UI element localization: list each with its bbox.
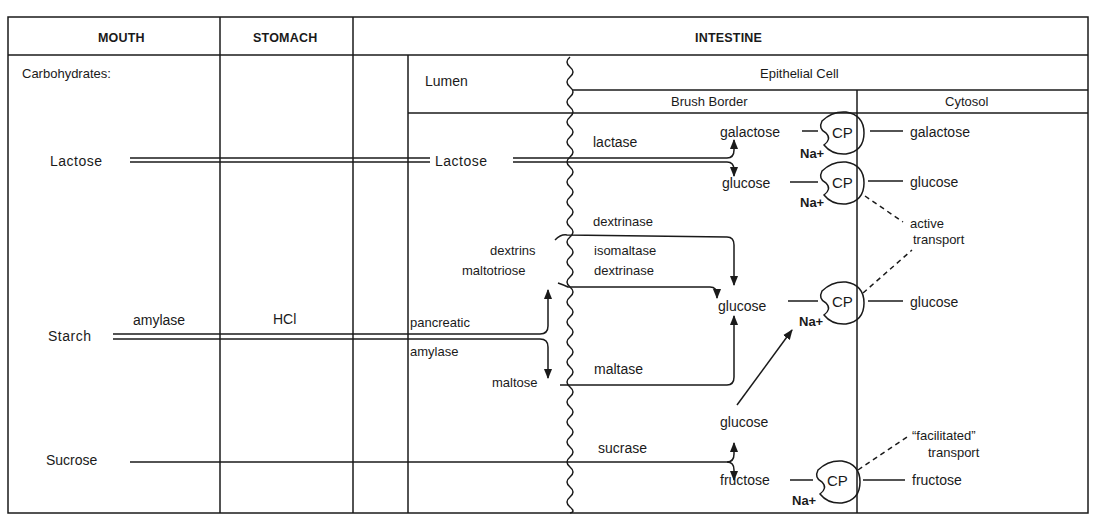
- carrier-na-label-1: Na+: [800, 146, 824, 162]
- carrier-na-label-3: Na+: [799, 314, 823, 330]
- cyto-active-transport: transport: [913, 232, 964, 248]
- bb-lactase: lactase: [593, 134, 637, 150]
- mouth-starch: Starch: [48, 328, 91, 344]
- lumen-dextrins: dextrins: [490, 243, 536, 259]
- membrane-wavy-line: [567, 57, 573, 513]
- bb-dextrinase-1: dextrinase: [593, 214, 653, 230]
- lumen-lactose: Lactose: [435, 153, 488, 169]
- bb-isomaltase: isomaltase: [594, 243, 656, 259]
- header-mouth: MOUTH: [98, 30, 145, 46]
- bb-sucrase: sucrase: [598, 440, 647, 456]
- lumen-pancreatic: pancreatic: [410, 315, 470, 331]
- carrier-cp-label-2: CP: [832, 175, 853, 191]
- bb-glucose-2: glucose: [718, 298, 766, 314]
- header-intestine: INTESTINE: [695, 30, 762, 46]
- carrier-cp-label-4: CP: [827, 473, 848, 489]
- mouth-lactose: Lactose: [50, 153, 103, 169]
- carrier-cp-label-1: CP: [832, 125, 853, 141]
- label-cytosol: Cytosol: [945, 94, 988, 110]
- lumen-amylase: amylase: [410, 344, 458, 360]
- carrier-na-label-2: Na+: [800, 195, 824, 211]
- label-carbohydrates: Carbohydrates:: [22, 66, 111, 82]
- lumen-maltose: maltose: [492, 375, 538, 391]
- cyto-fructose: fructose: [912, 472, 962, 488]
- lumen-maltotriose: maltotriose: [462, 263, 526, 279]
- cyto-glucose-1: glucose: [910, 174, 958, 190]
- bb-glucose-1: glucose: [722, 175, 770, 191]
- cyto-facilitated-transport: transport: [928, 445, 979, 461]
- cyto-galactose: galactose: [910, 124, 970, 140]
- carrier-cp-label-3: CP: [832, 294, 853, 310]
- stomach-hcl: HCl: [273, 311, 296, 327]
- mouth-amylase: amylase: [133, 312, 185, 328]
- label-epithelial-cell: Epithelial Cell: [760, 66, 839, 82]
- cyto-facilitated: “facilitated”: [912, 428, 976, 444]
- mouth-sucrose: Sucrose: [46, 452, 97, 468]
- bb-glucose-3: glucose: [720, 414, 768, 430]
- bb-galactose: galactose: [720, 124, 780, 140]
- label-brush-border: Brush Border: [671, 94, 748, 110]
- carrier-na-label-4: Na+: [792, 493, 816, 509]
- header-stomach: STOMACH: [253, 30, 317, 46]
- cyto-active: active: [910, 216, 944, 232]
- bb-dextrinase-2: dextrinase: [594, 263, 654, 279]
- bb-fructose: fructose: [720, 472, 770, 488]
- label-lumen: Lumen: [425, 73, 468, 89]
- cyto-glucose-2: glucose: [910, 294, 958, 310]
- bb-maltase: maltase: [594, 361, 643, 377]
